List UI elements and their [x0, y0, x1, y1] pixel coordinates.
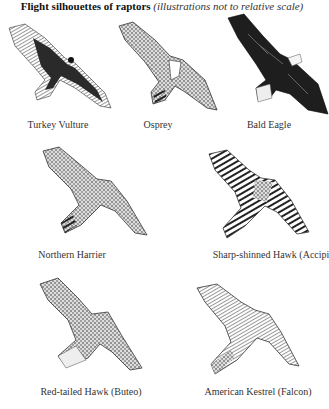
caption-red-tailed-hawk: Red-tailed Hawk (Buteo) [40, 386, 141, 397]
sharp-shinned-hawk-illustration [205, 150, 315, 245]
northern-harrier-illustration [35, 145, 155, 245]
red-tailed-hawk-illustration [38, 278, 148, 378]
title-main: Flight silhouettes of raptors [21, 0, 151, 12]
caption-osprey: Osprey [144, 119, 173, 130]
caption-bald-eagle: Bald Eagle [247, 119, 291, 130]
turkey-vulture-illustration [5, 18, 115, 118]
page-title: Flight silhouettes of raptors (illustrat… [0, 0, 324, 13]
caption-sharp-shinned-hawk: Sharp-shinned Hawk (Accipi [213, 249, 329, 260]
caption-turkey-vulture: Turkey Vulture [28, 119, 89, 130]
title-subtitle: (illustrations not to relative scale) [153, 0, 303, 12]
osprey-illustration [115, 20, 220, 120]
american-kestrel-illustration [195, 280, 305, 380]
caption-northern-harrier: Northern Harrier [38, 249, 105, 260]
bald-eagle-illustration [228, 14, 328, 124]
caption-american-kestrel: American Kestrel (Falcon) [204, 386, 311, 397]
